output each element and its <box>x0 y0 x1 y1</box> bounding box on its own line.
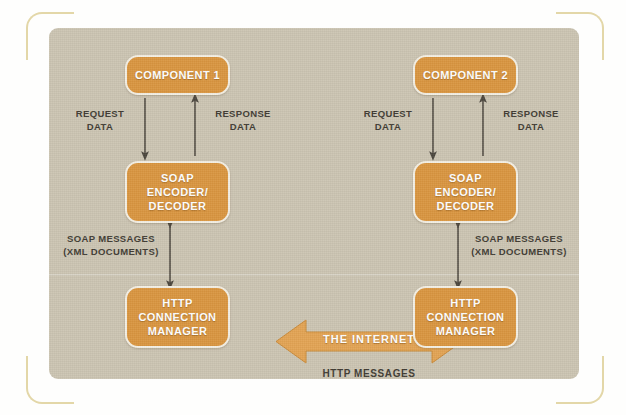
node-component-2[interactable]: COMPONENT 2 <box>413 55 518 95</box>
node-http-connection-manager-left[interactable]: HTTP CONNECTION MANAGER <box>125 286 230 348</box>
label-http-messages: HTTP MESSAGES <box>276 368 462 379</box>
node-soap-right-line-1: SOAP <box>449 171 482 185</box>
node-soap-right-line-3: DECODER <box>437 199 495 213</box>
node-http-right-line-3: MANAGER <box>436 324 496 338</box>
label-response-data-right: RESPONSE DATA <box>491 108 571 133</box>
node-http-left-line-2: CONNECTION <box>139 310 217 324</box>
node-component-2-label: COMPONENT 2 <box>423 68 508 82</box>
label-request-data-left: REQUEST DATA <box>63 108 137 133</box>
diagram-canvas: THE INTERNET COMPONENT 1 COMPONENT 2 SOA… <box>0 0 626 415</box>
label-response-data-left: RESPONSE DATA <box>203 108 283 133</box>
node-soap-left-line-1: SOAP <box>161 171 194 185</box>
node-soap-encoder-decoder-right[interactable]: SOAP ENCODER/ DECODER <box>413 161 518 223</box>
node-component-1-label: COMPONENT 1 <box>135 68 220 82</box>
diagram-panel: THE INTERNET COMPONENT 1 COMPONENT 2 SOA… <box>49 28 579 379</box>
node-soap-left-line-3: DECODER <box>149 199 207 213</box>
node-soap-right-line-2: ENCODER/ <box>435 185 496 199</box>
node-http-connection-manager-right[interactable]: HTTP CONNECTION MANAGER <box>413 286 518 348</box>
node-http-left-line-1: HTTP <box>162 296 192 310</box>
label-request-data-right: REQUEST DATA <box>351 108 425 133</box>
node-http-left-line-3: MANAGER <box>148 324 208 338</box>
label-soap-messages-right: SOAP MESSAGES (XML DOCUMENTS) <box>465 233 573 258</box>
node-http-right-line-1: HTTP <box>450 296 480 310</box>
scan-artifact-line <box>49 274 579 276</box>
label-soap-messages-left: SOAP MESSAGES (XML DOCUMENTS) <box>57 233 165 258</box>
node-http-right-line-2: CONNECTION <box>427 310 505 324</box>
node-soap-encoder-decoder-left[interactable]: SOAP ENCODER/ DECODER <box>125 161 230 223</box>
node-component-1[interactable]: COMPONENT 1 <box>125 55 230 95</box>
node-soap-left-line-2: ENCODER/ <box>147 185 208 199</box>
